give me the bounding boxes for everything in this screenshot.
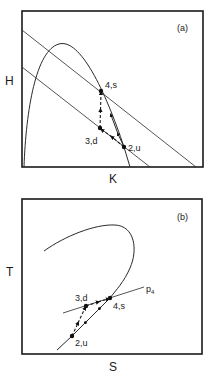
panel-b-x-axis-label: S <box>109 360 117 374</box>
panel-a-label-2u: 2,u <box>128 143 141 153</box>
panel-a-point-3d <box>98 126 102 130</box>
panel-a-label-4s: 4,s <box>105 80 118 90</box>
panel-a-arrow-3-to-4b <box>101 93 102 110</box>
panel-a-upper-line <box>22 30 196 167</box>
panel-b-point-3d <box>84 304 88 308</box>
panel-b-label-2u: 2,u <box>75 338 88 348</box>
panel-a: 4,s 3,d 2,u (a) H K <box>5 11 203 186</box>
panel-b-arrow-2-to-3b <box>78 308 85 323</box>
panel-b-label-4s: 4,s <box>113 301 126 311</box>
panel-b: 3,d 4,s 2,u p4 (b) T S <box>6 199 202 374</box>
panel-a-point-2u <box>122 145 126 149</box>
panel-b-arrow-2-to-4a <box>72 322 86 336</box>
panel-a-x-axis-label: K <box>109 172 117 186</box>
panel-b-tag: (b) <box>177 212 188 222</box>
panel-b-y-axis-label: T <box>6 265 14 279</box>
panel-b-frame <box>22 199 202 354</box>
panel-b-point-2u <box>70 334 74 338</box>
panel-b-label-3d: 3,d <box>75 293 88 303</box>
panel-b-curve <box>44 225 134 350</box>
panel-a-tag: (a) <box>177 23 188 33</box>
panel-a-point-4s <box>99 89 103 93</box>
panel-b-label-p4: p4 <box>146 284 155 295</box>
panel-a-curve <box>24 44 130 167</box>
panel-a-arrow-2-to-3b <box>102 130 112 137</box>
figure-canvas: 4,s 3,d 2,u (a) H K 3,d 4,s 2,u p4 (b) T… <box>0 0 210 376</box>
panel-b-arrow-2-to-4b <box>86 308 100 322</box>
panel-b-point-4s <box>108 296 112 300</box>
panel-a-y-axis-label: H <box>5 74 14 88</box>
panel-a-arrow-3-to-4a <box>100 110 101 128</box>
panel-a-label-3d: 3,d <box>85 136 98 146</box>
panel-a-arrow-2-to-4b <box>111 115 118 134</box>
